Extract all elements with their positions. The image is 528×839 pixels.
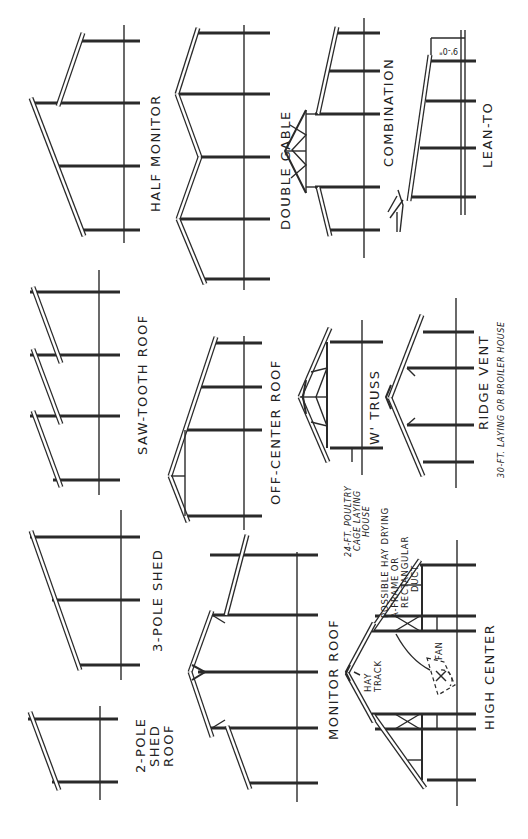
w-truss-note: 24-FT. POULTRY CAGE LAYING HOUSE	[344, 483, 371, 557]
two-pole-shed-diagram: 2-POLE SHED ROOF	[28, 706, 176, 800]
saw-tooth-label: SAW-TOOTH ROOF	[135, 314, 150, 455]
high-center-diagram: HAY TRACK FAN POSSIBLE HAY DRYING A-FRAM…	[346, 504, 497, 806]
half-monitor-diagram: HALF MONITOR	[31, 25, 163, 243]
w-truss-label: 'W' TRUSS	[367, 369, 382, 450]
fan-callout: FAN	[434, 641, 444, 660]
half-monitor-label: HALF MONITOR	[148, 94, 163, 212]
roof-types-drawing: HALF MONITOR DOUBLE GABLE	[0, 0, 528, 839]
hay-track-callout: HAY TRACK	[363, 660, 383, 693]
off-center-label: OFF-CENTER ROOF	[268, 359, 283, 505]
hay-drying-duct-callout: POSSIBLE HAY DRYING A-FRAME OR RECTANGUL…	[380, 504, 420, 618]
lean-to-label: LEAN-TO	[480, 102, 495, 168]
ridge-vent-label: RIDGE VENT	[476, 335, 491, 430]
combination-diagram: COMBINATION	[285, 18, 396, 258]
lean-to-diagram: 9'-0" LEAN-TO	[388, 30, 495, 232]
off-center-diagram: OFF-CENTER ROOF	[170, 336, 283, 530]
combination-label: COMBINATION	[381, 58, 396, 167]
double-gable-diagram: DOUBLE GABLE	[177, 25, 293, 290]
three-pole-shed-diagram: 3-POLE SHED	[30, 510, 165, 680]
high-center-label: HIGH CENTER	[482, 624, 497, 730]
double-gable-label: DOUBLE GABLE	[278, 110, 293, 230]
three-pole-shed-label: 3-POLE SHED	[150, 549, 165, 652]
w-truss-diagram: 'W' TRUSS 24-FT. POULTRY CAGE LAYING HOU…	[300, 320, 383, 557]
ridge-vent-note: 30-FT. LAYING OR BROILER HOUSE	[497, 321, 506, 478]
saw-tooth-diagram: SAW-TOOTH ROOF	[30, 270, 150, 495]
lean-to-dimension: 9'-0"	[439, 46, 458, 55]
two-pole-shed-label: 2-POLE SHED ROOF	[133, 712, 176, 773]
monitor-roof-label: MONITOR ROOF	[326, 619, 341, 740]
ridge-vent-diagram: RIDGE VENT 30-FT. LAYING OR BROILER HOUS…	[386, 298, 506, 488]
monitor-roof-diagram: MONITOR ROOF	[190, 535, 341, 802]
